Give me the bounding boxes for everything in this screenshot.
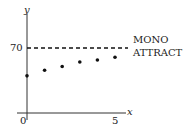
x-axis-label: x <box>127 106 133 117</box>
reference-label-line2: ATTRACT <box>132 47 183 58</box>
reference-label-line1: MONO <box>133 34 168 45</box>
y-tick-70: 70 <box>10 42 23 53</box>
y-axis-label: y <box>23 4 30 15</box>
data-point <box>60 65 64 69</box>
data-point <box>43 68 47 72</box>
axes <box>17 14 126 120</box>
data-point <box>25 74 29 78</box>
x-tick-5: 5 <box>112 115 118 126</box>
data-point <box>96 58 100 62</box>
x-tick-0: 0 <box>20 115 26 126</box>
data-points <box>25 55 117 77</box>
data-point <box>113 55 117 59</box>
data-point <box>78 60 82 64</box>
chart: y x 70 0 5 MONO ATTRACT <box>0 0 193 133</box>
